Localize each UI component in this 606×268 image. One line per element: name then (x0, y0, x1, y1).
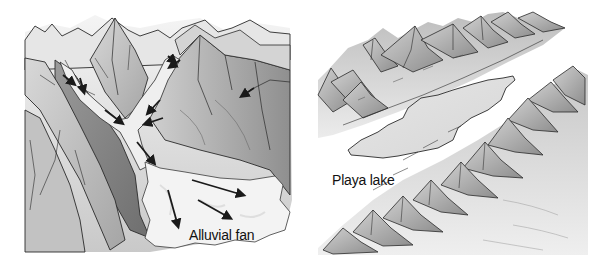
playa-lake-illustration (303, 0, 606, 268)
alluvial-fan-illustration (0, 0, 303, 268)
alluvial-fan-panel: Alluvial fan (0, 0, 303, 268)
alluvial-fan-label: Alluvial fan (189, 227, 254, 243)
playa-lake-label: Playa lake (332, 172, 395, 188)
playa-lake-panel: Playa lake (303, 0, 606, 268)
